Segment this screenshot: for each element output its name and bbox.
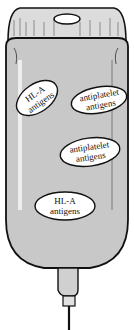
bag-neck xyxy=(58,268,78,296)
tube-connector xyxy=(63,296,75,306)
label-line: antigens xyxy=(38,206,92,216)
hanger-hole xyxy=(54,14,80,24)
label-line: HL-A xyxy=(38,196,92,206)
label-hla-bottom: HL-A antigens xyxy=(38,196,92,216)
